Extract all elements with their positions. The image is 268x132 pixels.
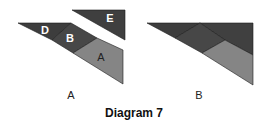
caption-b: B <box>189 89 209 101</box>
piece-label-d: D <box>35 24 55 36</box>
piece-label-b: B <box>60 32 80 44</box>
caption-a: A <box>61 89 81 101</box>
diagram-title: Diagram 7 <box>0 106 268 120</box>
diagram-b <box>147 23 253 85</box>
piece-label-e: E <box>100 12 120 24</box>
piece-label-a: A <box>91 51 111 63</box>
